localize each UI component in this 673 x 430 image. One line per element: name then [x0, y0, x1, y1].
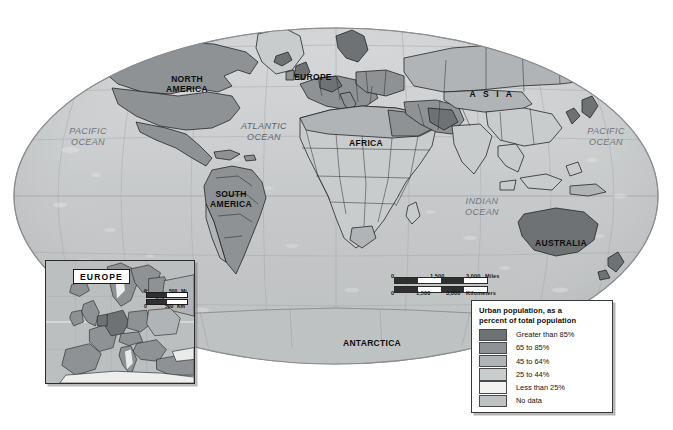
legend-item: 65 to 85% [479, 341, 606, 354]
inset-km-tick-1: 500 [165, 303, 173, 309]
scale-miles-unit: Miles [485, 273, 500, 279]
scale-km-unit: Kilometers [466, 290, 496, 296]
scale-miles-tick-2: 3,000 [466, 273, 481, 279]
inset-scale-bar: 0 500 Mi 0 500 Km [143, 289, 191, 307]
inset-scale-miles: 0 500 Mi [143, 289, 191, 298]
legend-swatch [479, 395, 507, 407]
scale-km-tick-1: 1,500 [416, 290, 431, 296]
scale-bar-miles: 0 1,500 3,000 Miles [390, 274, 498, 285]
legend-swatch [479, 368, 507, 380]
legend-swatch [479, 381, 507, 393]
inset-scale-km: 0 500 Km [143, 298, 191, 307]
europe-inset-map[interactable]: EUROPE 0 500 Mi 0 500 Km [45, 260, 195, 384]
legend-label: 25 to 44% [516, 370, 549, 379]
legend-label: 65 to 85% [516, 343, 549, 352]
legend-item: Greater than 85% [479, 328, 606, 341]
legend-item: 25 to 44% [479, 368, 606, 381]
scale-km-tick-0: 0 [391, 290, 394, 296]
legend-item: 45 to 64% [479, 355, 606, 368]
scale-bar: 0 1,500 3,000 Miles 0 1,500 3,000 Kilome… [390, 274, 498, 296]
legend-item: Less than 25% [479, 381, 606, 394]
map-figure: NORTH AMERICASOUTH AMERICAEUROPEAFRICAA … [0, 0, 673, 430]
inset-miles-tick-0: 0 [144, 288, 147, 294]
inset-km-unit: Km [177, 303, 185, 309]
inset-km-tick-0: 0 [144, 303, 147, 309]
scale-miles-tick-0: 0 [391, 273, 394, 279]
inset-miles-unit: Mi [181, 288, 187, 294]
legend-swatch [479, 329, 507, 341]
legend: Urban population, as a percent of total … [471, 300, 613, 413]
legend-label: No data [516, 396, 542, 405]
legend-label: Greater than 85% [516, 330, 574, 339]
legend-label: 45 to 64% [516, 357, 549, 366]
scale-km-tick-2: 3,000 [446, 290, 461, 296]
legend-label: Less than 25% [516, 383, 565, 392]
legend-title: Urban population, as a percent of total … [479, 306, 606, 325]
legend-items: Greater than 85%65 to 85%45 to 64%25 to … [479, 328, 606, 407]
inset-title-badge: EUROPE [73, 269, 130, 284]
legend-item: No data [479, 394, 606, 407]
scale-bar-kilometers: 0 1,500 3,000 Kilometers [390, 285, 498, 296]
scale-miles-tick-1: 1,500 [430, 273, 445, 279]
legend-swatch [479, 355, 507, 367]
legend-swatch [479, 342, 507, 354]
inset-miles-tick-1: 500 [169, 288, 177, 294]
